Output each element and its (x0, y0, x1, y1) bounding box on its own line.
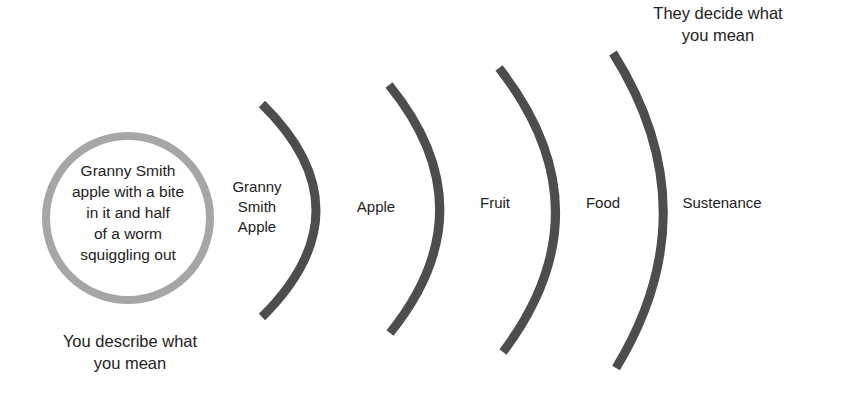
level-label-food: Food (575, 193, 631, 213)
circle-line: in it and half (48, 202, 208, 223)
level-label-sustenance: Sustenance (672, 193, 772, 213)
circle-line: of a worm (48, 223, 208, 244)
level-label-granny-smith-apple: Granny Smith Apple (222, 177, 292, 237)
circle-line: Granny Smith (48, 160, 208, 181)
level-label-fruit: Fruit (467, 193, 523, 213)
level-label-apple: Apple (346, 197, 406, 217)
caption-you-describe: You describe what you mean (20, 330, 240, 374)
caption-they-decide: They decide what you mean (618, 2, 818, 46)
center-circle-text: Granny Smith apple with a bite in it and… (48, 160, 208, 265)
circle-line: squiggling out (48, 244, 208, 265)
circle-line: apple with a bite (48, 181, 208, 202)
abstraction-diagram: Granny Smith apple with a bite in it and… (0, 0, 845, 398)
